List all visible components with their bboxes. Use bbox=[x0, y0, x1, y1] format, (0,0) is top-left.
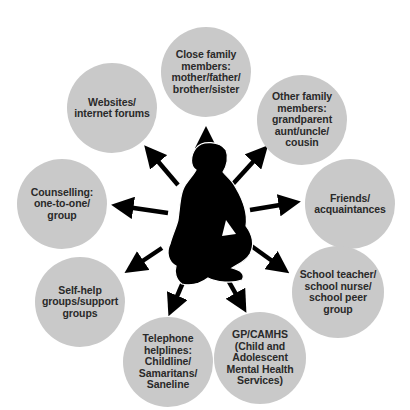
node-label: Websites/ internet forums bbox=[74, 97, 150, 120]
arrow-friends bbox=[250, 203, 292, 210]
arrow-gp bbox=[228, 280, 242, 305]
node-school: School teacher/ school nurse/ school pee… bbox=[292, 246, 384, 338]
node-label: Other family members: grandparent aunt/u… bbox=[272, 91, 332, 149]
node-self-help: Self-help groups/support groups bbox=[35, 257, 125, 347]
node-label: Self-help groups/support groups bbox=[42, 285, 118, 320]
support-network-diagram: Close family members: mother/father/ bro… bbox=[0, 0, 410, 410]
node-telephone-helplines: Telephone helplines: Childline/ Samarita… bbox=[123, 317, 213, 407]
crouching-figure-icon bbox=[168, 143, 253, 285]
node-websites: Websites/ internet forums bbox=[67, 63, 157, 153]
node-friends: Friends/ acquaintances bbox=[305, 159, 395, 249]
node-label: Close family members: mother/father/ bro… bbox=[171, 49, 240, 95]
node-counselling: Counselling: one-to-one/ group bbox=[17, 159, 107, 249]
node-label: GP/CAMHS (Child and Adolescent Mental He… bbox=[227, 329, 294, 387]
arrow-websites bbox=[150, 152, 178, 185]
node-label: Telephone helplines: Childline/ Samarita… bbox=[139, 333, 197, 391]
node-label: Counselling: one-to-one/ group bbox=[31, 187, 93, 222]
node-label: Friends/ acquaintances bbox=[314, 193, 386, 216]
node-gp-camhs: GP/CAMHS (Child and Adolescent Mental He… bbox=[214, 312, 306, 404]
arrow-other-family bbox=[232, 152, 262, 185]
node-other-family: Other family members: grandparent aunt/u… bbox=[257, 75, 347, 165]
node-close-family: Close family members: mother/father/ bro… bbox=[161, 27, 251, 117]
node-label: School teacher/ school nurse/ school pee… bbox=[300, 269, 377, 315]
arrow-counselling bbox=[120, 206, 168, 213]
arrow-self-help bbox=[132, 248, 162, 268]
arrow-school bbox=[250, 245, 282, 268]
